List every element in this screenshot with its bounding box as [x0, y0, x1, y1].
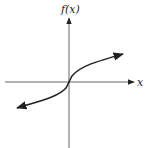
function-graph: f(x) x	[0, 0, 146, 148]
y-axis-label: f(x)	[60, 3, 80, 16]
x-axis-label: x	[137, 76, 144, 89]
function-curve	[17, 54, 123, 108]
